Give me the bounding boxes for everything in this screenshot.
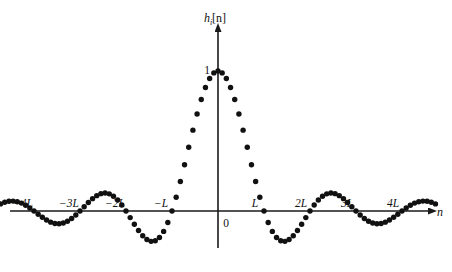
sample-dot	[186, 145, 191, 150]
x-tick-label: −4L	[13, 197, 33, 209]
y-axis-label-bracket: [n]	[212, 11, 226, 25]
plot-canvas: −4L−3L−2L−LL2L3L4L hi[n] n 1 0	[0, 0, 452, 272]
sample-dot	[81, 204, 86, 209]
sample-dot	[173, 194, 178, 199]
origin-label: 0	[223, 217, 229, 229]
y-axis-label: hi[n]	[204, 11, 226, 27]
sample-dot	[86, 200, 91, 205]
sample-dot	[132, 222, 137, 227]
sample-dot	[207, 76, 212, 81]
sample-dot	[203, 85, 208, 90]
sample-dot	[77, 208, 82, 213]
sample-dot	[261, 208, 266, 213]
peak-value-label: 1	[204, 64, 210, 76]
x-tick-label: 4L	[387, 197, 399, 209]
sample-dot	[169, 208, 174, 213]
sample-dot	[127, 215, 132, 220]
sample-dot	[182, 162, 187, 167]
sample-dot	[299, 222, 304, 227]
x-tick-label: −L	[154, 197, 168, 209]
sample-dot	[165, 220, 170, 225]
x-tick-label: −3L	[59, 197, 79, 209]
sample-dot	[286, 237, 291, 242]
sample-dot	[265, 220, 270, 225]
sample-dot	[199, 97, 204, 102]
x-tick-label-group: −4L−3L−2L−LL2L3L4L	[13, 197, 399, 209]
sample-dot	[161, 229, 166, 234]
sample-dot	[228, 85, 233, 90]
sample-dot	[178, 179, 183, 184]
sample-dot	[303, 215, 308, 220]
sample-dot	[311, 202, 316, 207]
sample-dot	[73, 212, 78, 217]
sample-dot	[291, 233, 296, 238]
sample-dot	[123, 208, 128, 213]
x-tick-label: 3L	[340, 197, 353, 209]
sample-dot	[224, 76, 229, 81]
sample-dot	[295, 228, 300, 233]
sample-dot	[232, 97, 237, 102]
sample-dot	[69, 216, 74, 221]
sample-dot	[307, 208, 312, 213]
sample-dot-group	[0, 68, 438, 244]
sample-dot	[245, 145, 250, 150]
sample-dot	[190, 127, 195, 132]
x-axis-label: n	[437, 205, 443, 219]
x-tick-label: L	[251, 197, 258, 209]
sample-dot	[316, 197, 321, 202]
sample-dot	[236, 111, 241, 116]
sample-dot	[353, 208, 358, 213]
sample-dot	[249, 162, 254, 167]
sample-dot	[253, 179, 258, 184]
x-tick-label: 2L	[295, 197, 307, 209]
x-tick-label: −2L	[105, 197, 125, 209]
sample-dot	[136, 228, 141, 233]
sample-dot	[219, 70, 224, 75]
sinc-plot-figure: −4L−3L−2L−LL2L3L4L hi[n] n 1 0	[0, 0, 452, 272]
sample-dot	[140, 233, 145, 238]
sample-dot	[194, 111, 199, 116]
sample-dot	[270, 229, 275, 234]
sample-dot	[240, 127, 245, 132]
sample-dot	[357, 212, 362, 217]
sample-dot	[157, 235, 162, 240]
